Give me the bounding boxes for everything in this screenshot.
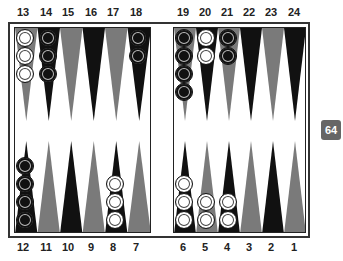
checker-black[interactable]: [16, 175, 34, 193]
point-label-17: 17: [102, 6, 124, 18]
checker-black[interactable]: [129, 29, 147, 47]
point-label-2: 2: [260, 241, 282, 253]
point-label-8: 8: [102, 241, 124, 253]
checker-black[interactable]: [39, 47, 57, 65]
checker-white[interactable]: [175, 193, 193, 211]
checker-black[interactable]: [16, 211, 34, 229]
doubling-cube[interactable]: 64: [321, 120, 341, 140]
point-label-12: 12: [12, 241, 34, 253]
point-label-20: 20: [194, 6, 216, 18]
checker-black[interactable]: [39, 29, 57, 47]
checker-white[interactable]: [175, 211, 193, 229]
point-label-15: 15: [57, 6, 79, 18]
checker-white[interactable]: [106, 193, 124, 211]
center-bar[interactable]: [151, 27, 173, 233]
point-label-11: 11: [35, 241, 57, 253]
checker-white[interactable]: [175, 175, 193, 193]
point-label-9: 9: [80, 241, 102, 253]
checker-white[interactable]: [219, 211, 237, 229]
checker-white[interactable]: [106, 211, 124, 229]
point-label-19: 19: [172, 6, 194, 18]
point-label-1: 1: [283, 241, 305, 253]
checker-black[interactable]: [175, 29, 193, 47]
point-label-21: 21: [216, 6, 238, 18]
checker-black[interactable]: [175, 47, 193, 65]
checker-white[interactable]: [197, 47, 215, 65]
checker-black[interactable]: [175, 65, 193, 83]
point-label-10: 10: [57, 241, 79, 253]
point-label-18: 18: [125, 6, 147, 18]
checker-white[interactable]: [106, 175, 124, 193]
checker-black[interactable]: [219, 47, 237, 65]
checker-white[interactable]: [16, 65, 34, 83]
checker-white[interactable]: [197, 211, 215, 229]
checker-black[interactable]: [16, 193, 34, 211]
right-points: [174, 28, 306, 233]
point-label-6: 6: [172, 241, 194, 253]
point-label-16: 16: [80, 6, 102, 18]
point-label-14: 14: [35, 6, 57, 18]
checker-white[interactable]: [197, 29, 215, 47]
checker-white[interactable]: [197, 193, 215, 211]
point-label-24: 24: [283, 6, 305, 18]
point-label-7: 7: [125, 241, 147, 253]
checker-black[interactable]: [219, 29, 237, 47]
point-label-22: 22: [238, 6, 260, 18]
checker-white[interactable]: [16, 47, 34, 65]
checker-white[interactable]: [16, 29, 34, 47]
checker-black[interactable]: [175, 83, 193, 101]
point-label-5: 5: [194, 241, 216, 253]
point-label-23: 23: [260, 6, 282, 18]
checker-black[interactable]: [16, 157, 34, 175]
point-label-4: 4: [216, 241, 238, 253]
checker-black[interactable]: [129, 47, 147, 65]
point-label-3: 3: [238, 241, 260, 253]
point-label-13: 13: [12, 6, 34, 18]
checker-black[interactable]: [39, 65, 57, 83]
checker-white[interactable]: [219, 193, 237, 211]
